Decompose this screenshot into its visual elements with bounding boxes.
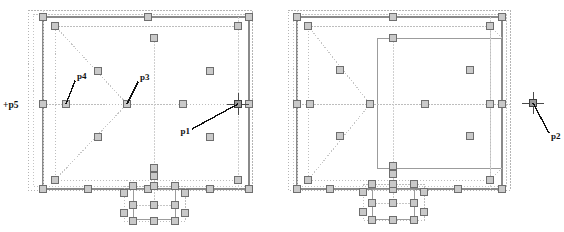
- left-selection-handle[interactable]: [40, 14, 47, 21]
- point-label-p1: p1: [180, 126, 190, 136]
- right-selection-handle[interactable]: [337, 133, 344, 140]
- right-selection-handle[interactable]: [411, 200, 418, 207]
- left-selection-handle[interactable]: [180, 101, 187, 108]
- left-selection-handle[interactable]: [246, 186, 253, 193]
- point-label-p5: +p5: [3, 100, 19, 110]
- left-selection-handle[interactable]: [151, 173, 158, 180]
- cad-canvas[interactable]: +p5 p4 p3 p1 p2: [0, 0, 564, 232]
- right-selection-handle[interactable]: [390, 163, 397, 170]
- right-selection-handle[interactable]: [327, 186, 334, 193]
- leader-p4: [66, 81, 75, 104]
- right-outer-selection-boundary: [288, 10, 510, 190]
- left-selection-handle[interactable]: [151, 218, 158, 225]
- left-selection-handle[interactable]: [40, 186, 47, 193]
- left-selection-handle[interactable]: [121, 190, 128, 197]
- right-selection-handle[interactable]: [390, 200, 397, 207]
- right-selection-handle[interactable]: [337, 67, 344, 74]
- right-selection-handle[interactable]: [390, 35, 397, 42]
- right-outer-selection-boundary-2: [293, 14, 506, 186]
- right-triangle-lower-edge: [308, 104, 370, 180]
- right-selection-handle[interactable]: [369, 181, 376, 188]
- left-selection-handle[interactable]: [130, 183, 137, 190]
- leader-p1: [192, 104, 238, 129]
- right-floor-plan[interactable]: [288, 10, 512, 224]
- left-selection-handle[interactable]: [145, 14, 152, 21]
- right-selection-handle[interactable]: [390, 171, 397, 178]
- right-selection-handle[interactable]: [390, 181, 397, 188]
- right-selection-handle[interactable]: [411, 181, 418, 188]
- left-selection-handle[interactable]: [130, 202, 137, 209]
- right-selection-handle[interactable]: [499, 186, 506, 193]
- right-selection-handle[interactable]: [455, 186, 462, 193]
- left-triangle-upper-edge: [55, 26, 127, 104]
- right-selection-handle[interactable]: [467, 67, 474, 74]
- left-selection-handle[interactable]: [151, 35, 158, 42]
- left-selection-handle[interactable]: [207, 134, 214, 141]
- left-selection-handle[interactable]: [151, 202, 158, 209]
- right-selection-handle[interactable]: [294, 186, 301, 193]
- left-selection-handle[interactable]: [207, 68, 214, 75]
- leader-p2: [533, 103, 549, 133]
- right-selection-handle[interactable]: [422, 101, 429, 108]
- left-selection-handle[interactable]: [172, 218, 179, 225]
- left-selection-handle[interactable]: [182, 190, 189, 197]
- point-label-p3: p3: [140, 72, 150, 82]
- left-selection-handle[interactable]: [235, 177, 242, 184]
- left-outer-selection-boundary: [28, 10, 252, 190]
- crosshair-cursors[interactable]: [227, 92, 544, 115]
- left-selection-handle[interactable]: [52, 23, 59, 30]
- left-selection-handle[interactable]: [172, 202, 179, 209]
- right-selection-handle[interactable]: [307, 101, 314, 108]
- right-selection-handle[interactable]: [499, 14, 506, 21]
- left-selection-handle[interactable]: [52, 177, 59, 184]
- left-selection-handle[interactable]: [182, 210, 189, 217]
- right-selection-handle[interactable]: [487, 101, 494, 108]
- right-selection-handle[interactable]: [499, 101, 506, 108]
- right-selection-handle[interactable]: [411, 217, 418, 224]
- right-selection-handle[interactable]: [294, 101, 301, 108]
- left-selection-handle[interactable]: [235, 23, 242, 30]
- left-selection-handle[interactable]: [85, 186, 92, 193]
- right-selection-handle[interactable]: [390, 14, 397, 21]
- right-triangle-upper-edge: [308, 26, 370, 104]
- left-selection-handle[interactable]: [95, 134, 102, 141]
- right-selection-handle[interactable]: [360, 189, 367, 196]
- point-label-p2: p2: [551, 131, 561, 141]
- right-selection-handle[interactable]: [305, 177, 312, 184]
- right-selection-handle[interactable]: [487, 177, 494, 184]
- right-selection-handle[interactable]: [467, 133, 474, 140]
- left-selection-handle[interactable]: [130, 218, 137, 225]
- right-selection-handle[interactable]: [421, 209, 428, 216]
- left-floor-plan[interactable]: [28, 10, 253, 225]
- left-triangle-lower-edge: [55, 104, 127, 180]
- left-selection-handle[interactable]: [207, 186, 214, 193]
- right-inner-offset-wall: [377, 38, 502, 168]
- right-selection-handle[interactable]: [369, 217, 376, 224]
- plan-drawing[interactable]: +p5 p4 p3 p1 p2: [0, 0, 564, 232]
- left-selection-handle[interactable]: [172, 183, 179, 190]
- right-wall-outline: [297, 17, 502, 189]
- point-label-p4: p4: [77, 71, 87, 81]
- right-selection-handle[interactable]: [367, 101, 374, 108]
- left-selection-handle[interactable]: [151, 165, 158, 172]
- right-selection-handle[interactable]: [294, 14, 301, 21]
- left-selection-handle[interactable]: [40, 101, 47, 108]
- left-selection-handle[interactable]: [151, 183, 158, 190]
- left-selection-handle[interactable]: [95, 68, 102, 75]
- right-room-boundary: [308, 26, 490, 180]
- left-wall-outline: [43, 17, 249, 189]
- left-selection-handle[interactable]: [121, 210, 128, 217]
- left-selection-handles[interactable]: [40, 14, 253, 225]
- right-selection-handles[interactable]: [294, 14, 506, 224]
- right-selection-handle[interactable]: [390, 217, 397, 224]
- left-room-boundary: [55, 26, 238, 180]
- right-selection-handle[interactable]: [369, 200, 376, 207]
- right-selection-handle[interactable]: [421, 189, 428, 196]
- right-selection-handle[interactable]: [487, 23, 494, 30]
- leader-p3: [127, 82, 138, 104]
- right-selection-handle[interactable]: [360, 209, 367, 216]
- right-selection-handle[interactable]: [305, 23, 312, 30]
- left-selection-handle[interactable]: [246, 14, 253, 21]
